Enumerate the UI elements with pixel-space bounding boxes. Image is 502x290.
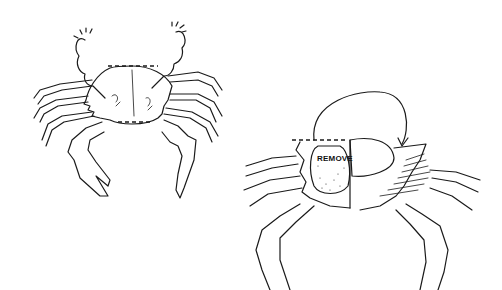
left-crab: [34, 22, 222, 198]
flip-arrow: [314, 92, 407, 144]
remove-label: REMOVE: [317, 154, 353, 163]
right-crab: [244, 92, 480, 290]
crab-illustration: [0, 0, 502, 290]
stipple: [317, 165, 344, 190]
